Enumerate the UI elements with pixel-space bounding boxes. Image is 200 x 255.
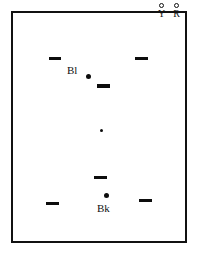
legend-label-y: Y bbox=[155, 9, 168, 19]
point-marker bbox=[100, 129, 103, 132]
point-label-bl: Bl bbox=[67, 65, 77, 76]
point-marker bbox=[104, 193, 109, 198]
plot-surface: BlBk bbox=[13, 13, 185, 241]
legend: Y R bbox=[155, 3, 185, 29]
dash-marker bbox=[97, 84, 110, 88]
point-marker bbox=[86, 74, 91, 79]
point-label-bk: Bk bbox=[97, 203, 110, 214]
dash-marker bbox=[135, 57, 148, 60]
dash-marker bbox=[94, 176, 107, 179]
dash-marker bbox=[46, 202, 59, 205]
dash-marker bbox=[139, 199, 152, 202]
legend-entry-r: R bbox=[170, 3, 183, 19]
dash-marker bbox=[49, 57, 61, 60]
legend-entry-y: Y bbox=[155, 3, 168, 19]
legend-label-r: R bbox=[170, 9, 183, 19]
figure-root: BlBk Y R bbox=[0, 0, 200, 255]
